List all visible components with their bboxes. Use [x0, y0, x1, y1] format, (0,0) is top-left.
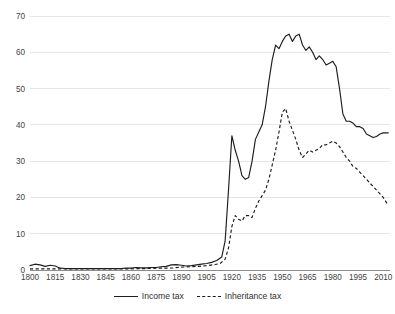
- x-tick-label: 1860: [122, 273, 141, 282]
- x-axis-tick-labels: 1800181518301845186018751890190519201935…: [21, 273, 393, 282]
- y-tick-label: 70: [16, 12, 26, 21]
- y-tick-label: 60: [16, 48, 26, 57]
- x-tick-label: 2010: [374, 273, 393, 282]
- x-tick-label: 1845: [97, 273, 116, 282]
- chart-legend: Income tax Inheritance tax: [0, 289, 395, 303]
- y-axis-tick-labels: 010203040506070: [16, 12, 26, 275]
- x-tick-label: 1995: [349, 273, 368, 282]
- legend-label-income-tax: Income tax: [142, 291, 184, 301]
- x-tick-label: 1935: [248, 273, 267, 282]
- gridlines-group: [30, 16, 390, 234]
- series-line-inheritance-tax: [30, 109, 388, 269]
- x-tick-label: 1965: [298, 273, 317, 282]
- legend-swatch-solid-icon: [114, 296, 138, 297]
- y-tick-label: 50: [16, 85, 26, 94]
- x-tick-label: 1830: [71, 273, 90, 282]
- y-tick-label: 20: [16, 193, 26, 202]
- x-tick-label: 1905: [198, 273, 217, 282]
- legend-label-inheritance-tax: Inheritance tax: [225, 291, 281, 301]
- x-tick-label: 1890: [172, 273, 191, 282]
- y-tick-label: 40: [16, 121, 26, 130]
- legend-item-income-tax: Income tax: [114, 291, 184, 301]
- x-tick-label: 1815: [46, 273, 65, 282]
- legend-item-inheritance-tax: Inheritance tax: [197, 291, 281, 301]
- x-tick-label: 1875: [147, 273, 166, 282]
- x-tick-label: 1920: [223, 273, 242, 282]
- y-tick-label: 10: [16, 230, 26, 239]
- x-tick-label: 1950: [273, 273, 292, 282]
- caption-clipped: [6, 307, 389, 314]
- chart-container: 010203040506070 180018151830184518601875…: [0, 0, 395, 314]
- y-tick-label: 30: [16, 157, 26, 166]
- x-tick-label: 1800: [21, 273, 40, 282]
- line-chart: 010203040506070 180018151830184518601875…: [0, 0, 395, 314]
- x-tick-label: 1980: [324, 273, 343, 282]
- legend-swatch-dashed-icon: [197, 296, 221, 297]
